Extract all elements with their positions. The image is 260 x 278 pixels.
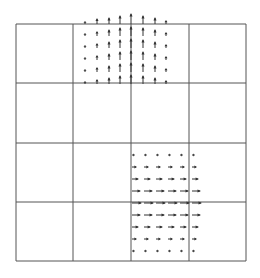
arrow-icon bbox=[192, 226, 199, 229]
arrow-icon bbox=[192, 214, 201, 217]
arrow-icon bbox=[165, 44, 168, 48]
arrow-icon bbox=[96, 31, 99, 36]
arrow-icon bbox=[144, 250, 147, 253]
arrow-icon bbox=[156, 178, 163, 181]
arrow-icon bbox=[168, 214, 177, 217]
arrow-icon bbox=[144, 226, 151, 229]
arrow-icon bbox=[156, 226, 163, 229]
arrow-icon bbox=[130, 13, 133, 24]
arrow-icon bbox=[108, 29, 111, 36]
arrow-icon bbox=[165, 56, 168, 60]
arrow-icon bbox=[168, 190, 177, 193]
arrow-icon bbox=[156, 214, 165, 217]
arrow-icon bbox=[144, 154, 147, 157]
arrow-icon bbox=[192, 238, 197, 241]
arrow-icon bbox=[132, 250, 135, 253]
arrow-icon bbox=[142, 39, 145, 48]
arrow-icon bbox=[84, 45, 87, 48]
arrow-icon bbox=[168, 166, 173, 169]
arrow-icon bbox=[142, 51, 145, 60]
arrow-icon bbox=[180, 178, 187, 181]
arrow-icon bbox=[119, 27, 122, 36]
arrow-icon bbox=[180, 250, 183, 253]
arrow-icon bbox=[156, 250, 159, 253]
arrow-icon bbox=[96, 55, 99, 60]
arrow-icon bbox=[180, 214, 189, 217]
arrow-icon bbox=[180, 238, 185, 241]
arrow-icon bbox=[130, 38, 133, 48]
arrow-icon bbox=[84, 57, 87, 60]
arrow-icon bbox=[165, 68, 168, 72]
arrow-icon bbox=[130, 62, 133, 72]
arrow-icon bbox=[192, 190, 201, 193]
arrow-icon bbox=[168, 238, 173, 241]
arrow-icon bbox=[168, 178, 175, 181]
arrow-icon bbox=[84, 33, 87, 36]
arrow-icon bbox=[96, 67, 99, 72]
arrow-icon bbox=[119, 15, 122, 24]
arrow-icon bbox=[154, 29, 157, 36]
arrow-icon bbox=[168, 226, 175, 229]
arrow-icon bbox=[108, 53, 111, 60]
arrow-icon bbox=[154, 65, 157, 72]
arrow-icon bbox=[192, 250, 195, 253]
arrow-icon bbox=[96, 18, 99, 24]
arrow-icon bbox=[144, 214, 153, 217]
arrow-icon bbox=[192, 166, 197, 169]
vector-field-diagram bbox=[0, 0, 260, 278]
arrow-icon bbox=[142, 63, 145, 72]
arrow-icon bbox=[154, 17, 157, 24]
arrow-icon bbox=[180, 190, 189, 193]
arrow-icon bbox=[144, 178, 151, 181]
arrow-icon bbox=[156, 166, 161, 169]
arrow-icon bbox=[108, 41, 111, 48]
arrow-icon bbox=[142, 15, 145, 24]
arrow-icon bbox=[119, 51, 122, 60]
arrow-icon bbox=[84, 69, 87, 72]
arrow-icon bbox=[132, 178, 139, 181]
arrow-icon bbox=[132, 214, 141, 217]
arrow-icon bbox=[119, 39, 122, 48]
arrow-icon bbox=[154, 41, 157, 48]
arrow-icon bbox=[96, 43, 99, 48]
arrow-icon bbox=[144, 190, 153, 193]
arrow-icon bbox=[84, 81, 87, 84]
arrow-icon bbox=[108, 65, 111, 72]
arrow-icon bbox=[192, 178, 199, 181]
rightward-vector-field bbox=[132, 154, 202, 253]
arrow-icon bbox=[130, 50, 133, 60]
arrow-icon bbox=[132, 166, 137, 169]
arrow-icon bbox=[132, 154, 135, 157]
arrow-icon bbox=[168, 154, 171, 157]
arrow-icon bbox=[156, 238, 161, 241]
arrow-icon bbox=[108, 17, 111, 24]
arrow-icon bbox=[180, 154, 183, 157]
arrow-icon bbox=[165, 20, 168, 24]
arrow-icon bbox=[119, 63, 122, 72]
arrow-icon bbox=[180, 226, 187, 229]
arrow-icon bbox=[165, 32, 168, 36]
arrow-icon bbox=[142, 27, 145, 36]
arrow-icon bbox=[154, 53, 157, 60]
arrow-icon bbox=[180, 166, 185, 169]
arrow-icon bbox=[132, 190, 141, 193]
arrow-icon bbox=[144, 166, 149, 169]
arrow-icon bbox=[192, 154, 195, 157]
arrow-icon bbox=[132, 238, 137, 241]
arrow-icon bbox=[156, 154, 159, 157]
arrow-icon bbox=[156, 190, 165, 193]
arrow-icon bbox=[144, 238, 149, 241]
arrow-icon bbox=[130, 26, 133, 36]
arrow-icon bbox=[132, 226, 139, 229]
arrow-icon bbox=[168, 250, 171, 253]
